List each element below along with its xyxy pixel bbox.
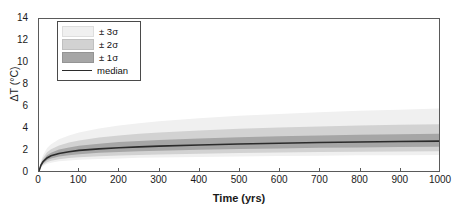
- legend-entry-1sigma[interactable]: ± 1σ: [62, 51, 136, 64]
- y-tick-label-12: 12: [17, 35, 28, 45]
- x-tick-mark-500: [239, 168, 240, 172]
- y-tick-label-8: 8: [22, 79, 28, 89]
- x-tick-label-900: 900: [391, 175, 408, 185]
- legend-entry-2sigma[interactable]: ± 2σ: [62, 38, 136, 51]
- legend[interactable]: ± 3σ ± 2σ ± 1σ median: [57, 21, 141, 81]
- y-tick-label-6: 6: [22, 101, 28, 111]
- x-tick-label-800: 800: [351, 175, 368, 185]
- legend-entry-median[interactable]: median: [62, 64, 136, 77]
- x-tick-mark-700: [319, 168, 320, 172]
- legend-swatch-median: [62, 66, 92, 75]
- x-tick-label-500: 500: [231, 175, 248, 185]
- x-tick-mark-900: [400, 168, 401, 172]
- x-tick-mark-600: [279, 168, 280, 172]
- x-tick-label-700: 700: [311, 175, 328, 185]
- y-tick-label-4: 4: [22, 123, 28, 133]
- legend-label-median: median: [97, 66, 128, 76]
- x-tick-mark-400: [199, 168, 200, 172]
- x-tick-label-600: 600: [271, 175, 288, 185]
- x-tick-label-200: 200: [110, 175, 127, 185]
- legend-swatch-1sigma: [62, 52, 94, 63]
- figure-delta-t-vs-time: ΔT (°C) 0 2 4 6 8 10 12 14 ± 3σ ± 2σ: [0, 0, 456, 217]
- x-tick-mark-300: [159, 168, 160, 172]
- y-tick-label-14: 14: [17, 13, 28, 23]
- x-tick-label-400: 400: [190, 175, 207, 185]
- x-tick-label-300: 300: [150, 175, 167, 185]
- legend-swatch-2sigma: [62, 39, 94, 50]
- y-tick-label-2: 2: [22, 145, 28, 155]
- legend-entry-3sigma[interactable]: ± 3σ: [62, 25, 136, 38]
- x-tick-mark-100: [78, 168, 79, 172]
- legend-label-3sigma: ± 3σ: [99, 27, 118, 37]
- y-tick-label-10: 10: [17, 57, 28, 67]
- x-tick-label-100: 100: [70, 175, 87, 185]
- y-axis: ΔT (°C) 0 2 4 6 8 10 12 14: [0, 0, 38, 217]
- x-tick-mark-800: [360, 168, 361, 172]
- y-tick-label-0: 0: [22, 167, 28, 177]
- x-tick-label-1000: 1000: [429, 175, 451, 185]
- x-axis-label: Time (yrs): [38, 192, 440, 204]
- legend-label-2sigma: ± 2σ: [99, 40, 118, 50]
- x-tick-label-0: 0: [35, 175, 41, 185]
- legend-label-1sigma: ± 1σ: [99, 53, 118, 63]
- x-tick-mark-200: [118, 168, 119, 172]
- legend-swatch-3sigma: [62, 26, 94, 37]
